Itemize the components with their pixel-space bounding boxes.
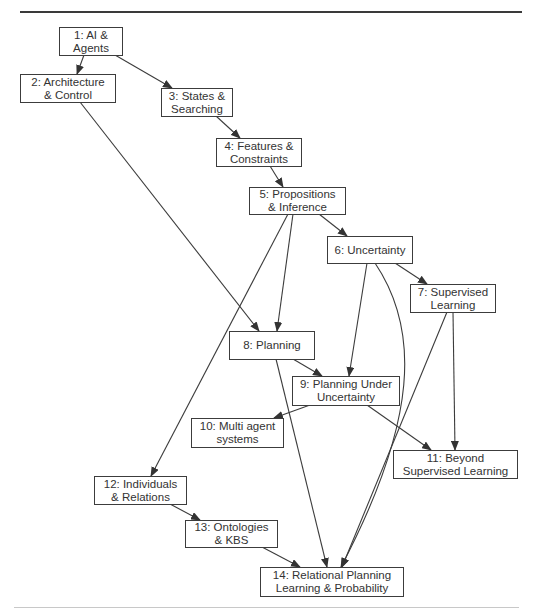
node-label: 10: Multi agent systems: [200, 420, 275, 446]
edge-1-2: [77, 55, 84, 74]
node-label: 5: Propositions & Inference: [259, 188, 335, 214]
node-supervised-learning: 7: Supervised Learning: [410, 284, 496, 313]
edge-3-4: [216, 116, 240, 138]
node-label: 2: Architecture & Control: [31, 76, 105, 102]
node-architecture-control: 2: Architecture & Control: [20, 74, 116, 103]
node-individuals-relations: 12: Individuals & Relations: [94, 476, 187, 505]
node-planning-under-uncertainty: 9: Planning Under Uncertainty: [292, 376, 400, 406]
node-label: 4: Features & Constraints: [224, 140, 293, 166]
node-beyond-supervised-learning: 11: Beyond Supervised Learning: [393, 450, 518, 479]
node-multi-agent-systems: 10: Multi agent systems: [191, 418, 284, 448]
edge-1-3: [115, 55, 172, 88]
edge-6-9: [349, 263, 367, 376]
node-ontologies-kbs: 13: Ontologies & KBS: [185, 520, 278, 548]
node-label: 11: Beyond Supervised Learning: [403, 452, 509, 478]
edge-7-11: [453, 312, 455, 450]
edge-12-13: [170, 504, 200, 520]
node-label: 9: Planning Under Uncertainty: [300, 378, 392, 404]
node-label: 12: Individuals & Relations: [104, 478, 178, 504]
node-relational-planning: 14: Relational Planning Learning & Proba…: [260, 567, 404, 597]
node-features-constraints: 4: Features & Constraints: [216, 138, 302, 167]
node-propositions-inference: 5: Propositions & Inference: [249, 187, 346, 215]
node-states-searching: 3: States & Searching: [161, 88, 233, 117]
node-label: 6: Uncertainty: [335, 244, 406, 257]
node-label: 8: Planning: [243, 339, 301, 352]
edge-7-14: [342, 312, 447, 567]
node-label: 13: Ontologies & KBS: [194, 521, 268, 547]
node-ai-agents: 1: AI & Agents: [59, 27, 123, 56]
node-planning: 8: Planning: [229, 331, 315, 360]
edge-6-14: [341, 263, 405, 567]
node-label: 1: AI & Agents: [73, 29, 109, 55]
edge-9-11: [367, 405, 431, 450]
edge-2-8: [80, 102, 259, 331]
edge-5-6: [319, 214, 347, 236]
node-uncertainty: 6: Uncertainty: [327, 236, 413, 264]
node-label: 14: Relational Planning Learning & Proba…: [273, 569, 391, 595]
edge-4-5: [270, 166, 283, 187]
node-label: 7: Supervised Learning: [418, 286, 488, 312]
edge-13-14: [262, 547, 300, 567]
edge-8-9: [293, 359, 322, 376]
edge-9-10: [274, 405, 310, 418]
node-label: 3: States & Searching: [169, 90, 225, 116]
edge-6-7: [395, 263, 427, 284]
